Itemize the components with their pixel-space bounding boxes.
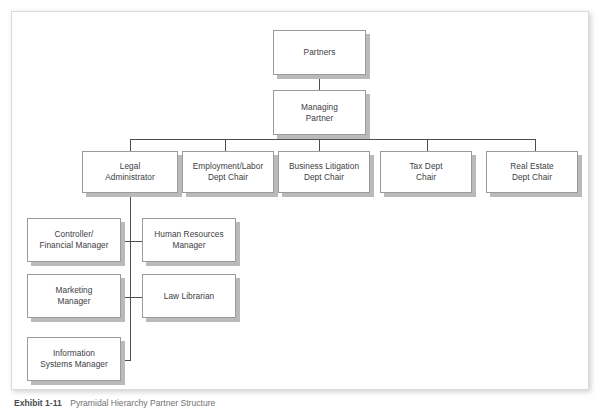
connector-bus-to-business-litigation-dept-chair <box>319 139 320 151</box>
connector-spine-to-information-systems-manager <box>120 360 131 361</box>
org-node-business-litigation-dept-chair-label: Business Litigation Dept Chair <box>282 161 366 183</box>
figure-frame: Partners Managing Partner Legal Administ… <box>11 11 589 390</box>
org-node-tax-dept-chair[interactable]: Tax Dept Chair <box>380 151 472 193</box>
org-chart: Partners Managing Partner Legal Administ… <box>12 12 590 391</box>
org-node-human-resources-manager-label: Human Resources Manager <box>146 229 232 251</box>
connector-bus-to-employment-labor-dept-chair <box>225 139 226 151</box>
connector-bus-to-legal-administrator <box>130 139 131 151</box>
figure-caption: Exhibit 1-11 Pyramidal Hierarchy Partner… <box>14 398 574 408</box>
org-node-information-systems-manager-label: Information Systems Manager <box>31 348 117 370</box>
org-node-legal-administrator-label: Legal Administrator <box>86 161 174 183</box>
org-node-employment-labor-dept-chair[interactable]: Employment/Labor Dept Chair <box>182 151 274 193</box>
org-node-legal-administrator[interactable]: Legal Administrator <box>82 151 178 193</box>
connector-bus-to-tax-dept-chair <box>427 139 428 151</box>
org-node-real-estate-dept-chair[interactable]: Real Estate Dept Chair <box>486 151 578 193</box>
org-node-human-resources-manager[interactable]: Human Resources Manager <box>142 218 236 262</box>
org-node-real-estate-dept-chair-label: Real Estate Dept Chair <box>490 161 574 183</box>
org-node-tax-dept-chair-label: Tax Dept Chair <box>384 161 468 183</box>
connector-level2-bus <box>130 139 535 140</box>
connector-spine-to-law-librarian <box>130 297 142 298</box>
figure-caption-text: Pyramidal Hierarchy Partner Structure <box>70 398 215 408</box>
figure-caption-label: Exhibit 1-11 <box>14 398 62 408</box>
figure-canvas: Partners Managing Partner Legal Administ… <box>0 0 604 408</box>
org-node-business-litigation-dept-chair[interactable]: Business Litigation Dept Chair <box>278 151 370 193</box>
org-node-law-librarian[interactable]: Law Librarian <box>142 274 236 318</box>
connector-bus-to-real-estate-dept-chair <box>535 139 536 151</box>
org-node-law-librarian-label: Law Librarian <box>146 291 232 302</box>
org-node-managing-partner[interactable]: Managing Partner <box>273 90 366 135</box>
org-node-controller-financial-manager[interactable]: Controller/ Financial Manager <box>27 218 121 262</box>
connector-legal-administrator-spine <box>130 193 131 361</box>
org-node-partners-label: Partners <box>277 47 362 58</box>
org-node-information-systems-manager[interactable]: Information Systems Manager <box>27 337 121 381</box>
org-node-marketing-manager[interactable]: Marketing Manager <box>27 274 121 318</box>
org-node-marketing-manager-label: Marketing Manager <box>31 285 117 307</box>
org-node-employment-labor-dept-chair-label: Employment/Labor Dept Chair <box>186 161 270 183</box>
org-node-controller-financial-manager-label: Controller/ Financial Manager <box>31 229 117 251</box>
connector-spine-to-human-resources-manager <box>130 241 142 242</box>
org-node-managing-partner-label: Managing Partner <box>277 102 362 124</box>
org-node-partners[interactable]: Partners <box>273 30 366 75</box>
